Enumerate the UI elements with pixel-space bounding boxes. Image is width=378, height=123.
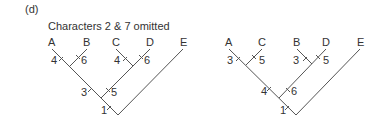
branch-label: 5 — [111, 86, 117, 98]
branch-label: 4 — [51, 54, 57, 66]
leaf-label: E — [180, 36, 187, 48]
leaf-label: B — [293, 36, 300, 48]
branch-label: 6 — [291, 85, 297, 97]
leaf-label: A — [48, 36, 56, 48]
leaf-label: E — [357, 36, 364, 48]
character-tick — [88, 88, 92, 92]
leaf-label: C — [258, 36, 266, 48]
branch-label: 4 — [114, 54, 120, 66]
branch-label: 3 — [81, 86, 87, 98]
leaf-label: A — [225, 36, 233, 48]
branch-e — [118, 49, 183, 115]
branch-label: 1 — [101, 104, 107, 116]
branch-label: 5 — [259, 54, 265, 66]
branch-label: 1 — [280, 104, 286, 116]
cladogram-1: A B C D E 4 6 4 6 3 5 1 — [48, 36, 187, 116]
branch-label: 4 — [261, 85, 267, 97]
branch-label: 3 — [227, 54, 233, 66]
branch-label: 6 — [144, 54, 150, 66]
branch-label: 6 — [81, 54, 87, 66]
branch-label: 3 — [293, 54, 299, 66]
branch-b — [297, 49, 312, 64]
cladograms: A B C D E 4 6 4 6 3 5 1 A C B D — [0, 0, 378, 123]
cladogram-2: A C B D E 3 5 3 5 4 6 1 — [225, 36, 364, 116]
branch-label: 5 — [323, 54, 329, 66]
leaf-label: B — [83, 36, 90, 48]
leaf-label: D — [146, 36, 154, 48]
leaf-label: D — [322, 36, 330, 48]
leaf-label: C — [112, 36, 120, 48]
